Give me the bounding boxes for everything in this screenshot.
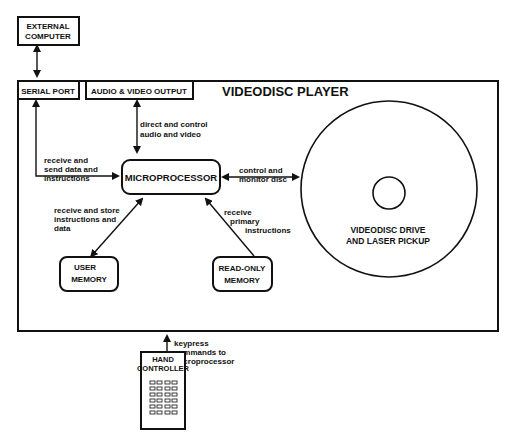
- serial-edge-label-2: send data and: [44, 165, 98, 174]
- hand-controller-block: HAND CONTROLLER: [137, 352, 190, 429]
- disc-hub-icon: [373, 177, 405, 209]
- av-output-label: AUDIO & VIDEO OUTPUT: [91, 87, 187, 96]
- disc-edge-label-1: control and: [239, 166, 283, 175]
- rom-edge-label-2: primary: [230, 217, 260, 226]
- player-title: VIDEODISC PLAYER: [222, 84, 349, 99]
- hand-controller-label-1: HAND: [152, 355, 174, 364]
- videodisc-icon: [301, 101, 477, 277]
- user-mem-edge-label-2: instructions and: [54, 215, 116, 224]
- av-edge-label-2: audio and video: [140, 130, 201, 139]
- microprocessor-label: MICROPROCESSOR: [125, 172, 218, 183]
- disc-drive-label-2: AND LASER PICKUP: [346, 236, 430, 246]
- user-mem-edge-label-1: receive and store: [54, 206, 120, 215]
- av-edge-label-1: direct and control: [140, 120, 208, 129]
- user-memory-label-2: MEMORY: [71, 275, 107, 284]
- external-computer-block: EXTERNAL COMPUTER: [18, 17, 79, 45]
- external-computer-label-1: EXTERNAL: [26, 22, 69, 31]
- rom-label-2: MEMORY: [224, 276, 260, 285]
- serial-port-label: SERIAL PORT: [21, 87, 75, 96]
- serial-edge-label-1: receive and: [44, 156, 88, 165]
- rom-label-1: READ-ONLY: [219, 264, 266, 273]
- disc-edge-label-2: monitor disc: [239, 175, 288, 184]
- serial-edge-label-3: instructions: [44, 174, 90, 183]
- user-mem-edge-label-3: data: [54, 224, 71, 233]
- external-computer-label-2: COMPUTER: [25, 32, 71, 41]
- rom-edge-label-1: receive: [224, 208, 252, 217]
- disc-drive-label-1: VIDEODISC DRIVE: [350, 225, 425, 235]
- rom-block: [213, 257, 272, 291]
- keypress-label-1: keypress: [174, 339, 209, 348]
- rom-edge-label-3: instructions: [245, 226, 291, 235]
- videodisc-diagram: EXTERNAL COMPUTER SERIAL PORT AUDIO & VI…: [0, 0, 507, 444]
- hand-controller-label-2: CONTROLLER: [137, 364, 190, 373]
- user-memory-label-1: USER: [74, 263, 96, 272]
